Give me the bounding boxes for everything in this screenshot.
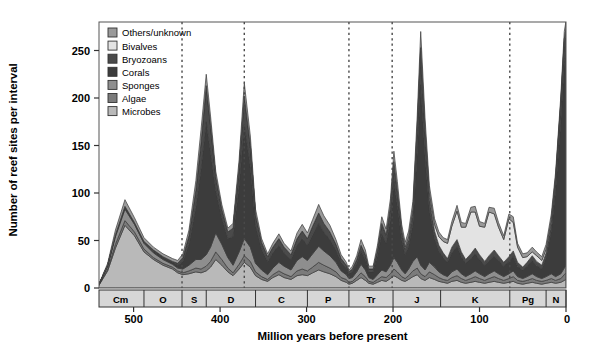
legend-swatch <box>108 54 117 63</box>
period-label-tr: Tr <box>366 294 375 305</box>
y-tick-label: 150 <box>72 140 90 152</box>
legend-label: Corals <box>122 67 150 78</box>
legend-label: Sponges <box>122 80 160 91</box>
plot-area <box>97 21 566 288</box>
period-label-k: K <box>472 294 479 305</box>
x-tick-label: 300 <box>297 313 315 325</box>
legend-item-microbes[interactable]: Microbes <box>108 106 161 117</box>
legend-swatch <box>108 67 117 76</box>
legend-swatch <box>108 94 117 103</box>
x-tick-label: 100 <box>470 313 488 325</box>
legend-item-corals[interactable]: Corals <box>108 67 150 78</box>
legend-item-algae[interactable]: Algae <box>108 93 146 104</box>
y-tick-label: 0 <box>84 282 90 294</box>
legend-label: Algae <box>122 93 146 104</box>
legend-item-bryozoans[interactable]: Bryozoans <box>108 54 167 65</box>
geologic-timescale-band <box>99 290 566 307</box>
legend-item-bivalves[interactable]: Bivalves <box>108 41 158 52</box>
x-tick-label: 400 <box>211 313 229 325</box>
x-axis-title: Million years before present <box>258 330 408 342</box>
y-tick-label: 200 <box>72 92 90 104</box>
legend-label: Microbes <box>122 106 161 117</box>
period-label-p: P <box>325 294 332 305</box>
legend-label: Bryozoans <box>122 54 167 65</box>
legend-swatch <box>108 80 117 89</box>
x-tick-label: 200 <box>384 313 402 325</box>
reef-sites-chart-figure: Number of reef sites per interval 050100… <box>0 0 592 352</box>
period-label-j: J <box>414 294 419 305</box>
chart-legend: Others/unknownBivalvesBryozoansCoralsSpo… <box>108 27 191 117</box>
period-label-c: C <box>278 294 285 305</box>
period-label-cm: Cm <box>113 294 128 305</box>
legend-swatch <box>108 107 117 116</box>
y-tick-label: 250 <box>72 45 90 57</box>
period-label-o: O <box>159 294 166 305</box>
legend-label: Others/unknown <box>122 27 191 38</box>
y-tick-label: 100 <box>72 187 90 199</box>
x-axis-title-wrapper: Million years before present <box>99 326 566 344</box>
legend-item-others-unknown[interactable]: Others/unknown <box>108 27 191 38</box>
legend-item-sponges[interactable]: Sponges <box>108 80 160 91</box>
period-label-d: D <box>227 294 234 305</box>
period-label-s: S <box>191 294 197 305</box>
y-tick-label: 50 <box>78 235 90 247</box>
legend-swatch <box>108 41 117 50</box>
period-label-n: N <box>553 294 560 305</box>
chart-canvas: 050100150200250CmOSDCPTrJKPgN50040030020… <box>0 0 592 352</box>
x-tick-label: 500 <box>124 313 142 325</box>
legend-swatch <box>108 28 117 37</box>
x-tick-label: 0 <box>564 313 570 325</box>
period-label-pg: Pg <box>522 294 534 305</box>
legend-label: Bivalves <box>122 41 158 52</box>
